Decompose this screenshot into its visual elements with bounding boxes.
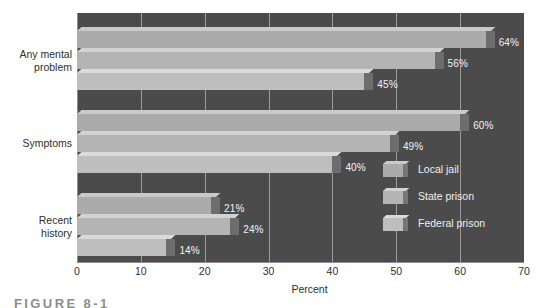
bar: [77, 197, 220, 214]
legend-label: State prison: [418, 190, 474, 202]
category-label: Symptoms: [0, 137, 72, 150]
category-label: Recenthistory: [0, 214, 72, 239]
category-label-line: Any mental: [0, 48, 72, 61]
bar-value-label: 64%: [499, 37, 519, 49]
x-tick-label: 30: [254, 265, 284, 277]
bar-value-label: 49%: [403, 141, 423, 153]
legend-item-federal-prison: Federal prison: [383, 215, 516, 235]
bar-value-label: 14%: [179, 245, 199, 257]
bar-value-label: 24%: [243, 224, 263, 236]
category-label-line: problem: [0, 61, 72, 74]
bar-value-label: 40%: [345, 162, 365, 174]
bar: [77, 218, 239, 235]
bar: [77, 31, 495, 48]
bar: [77, 135, 399, 152]
plot-area: 64%56%45%60%49%40%21%24%14% Local jail S…: [77, 13, 524, 262]
x-tick-label: 60: [445, 265, 475, 277]
legend-swatch-icon: [383, 218, 408, 231]
x-tick-label: 50: [381, 265, 411, 277]
figure-caption: FIGURE 8-1: [14, 296, 110, 308]
legend-swatch-icon: [383, 191, 408, 204]
legend-label: Local jail: [418, 163, 459, 175]
x-tick-label: 20: [190, 265, 220, 277]
category-label-line: Recent: [0, 214, 72, 227]
legend-label: Federal prison: [418, 217, 485, 229]
figure-bar-chart: 64%56%45%60%49%40%21%24%14% Local jail S…: [0, 0, 541, 308]
x-tick-label: 40: [317, 265, 347, 277]
x-tick-label: 0: [62, 265, 92, 277]
category-label-line: Symptoms: [0, 137, 72, 150]
bar: [77, 239, 175, 256]
x-axis-title: Percent: [0, 283, 541, 295]
bar: [77, 52, 444, 69]
legend-item-state-prison: State prison: [383, 188, 516, 208]
bar: [77, 73, 373, 90]
bar: [77, 114, 469, 131]
x-axis-title-text: Percent: [291, 283, 327, 295]
x-tick-label: 70: [509, 265, 539, 277]
bar-value-label: 45%: [377, 79, 397, 91]
bar: [77, 156, 341, 173]
category-label: Any mentalproblem: [0, 48, 72, 73]
x-tick-label: 10: [126, 265, 156, 277]
x-axis-line: [77, 262, 524, 263]
bar-value-label: 56%: [448, 58, 468, 70]
category-label-line: history: [0, 227, 72, 240]
bar-value-label: 60%: [473, 120, 493, 132]
legend: Local jail State prison Federal prison: [383, 161, 516, 242]
legend-item-local-jail: Local jail: [383, 161, 516, 181]
legend-swatch-icon: [383, 164, 408, 177]
